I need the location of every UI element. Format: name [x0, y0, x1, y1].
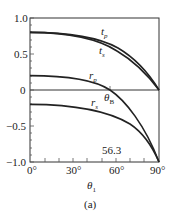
label-rp: rp: [89, 70, 97, 84]
series-rs: [30, 104, 159, 162]
label-ts: ts: [99, 45, 105, 59]
y-tick-label: 1.0: [14, 13, 28, 24]
figure-caption: (a): [84, 199, 96, 210]
x-tick-label: 30°: [66, 165, 81, 176]
y-tick-label: 0: [20, 85, 26, 96]
x-tick-label: 60°: [109, 165, 124, 176]
label-tp: tp: [101, 26, 108, 40]
y-tick-label: −1.0: [6, 157, 26, 168]
x-tick-label: 90°: [150, 165, 165, 176]
x-tick-label: 0°: [27, 165, 37, 176]
y-tick-label: −0.5: [6, 121, 26, 132]
y-ticks: [30, 18, 34, 162]
y-tick-label: 0.5: [14, 49, 28, 60]
series-rp: [30, 76, 159, 162]
label-rs: rs: [91, 97, 98, 111]
chart-plot: [0, 0, 170, 217]
x-axis-label: θ1: [87, 180, 96, 194]
brewster-value: 56.3: [102, 145, 121, 156]
label-brewster-angle: θB: [104, 92, 114, 106]
